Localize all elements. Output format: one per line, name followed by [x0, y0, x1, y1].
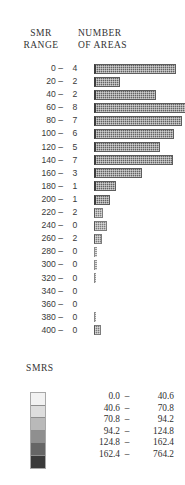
row-range-label: 160 – [0, 167, 63, 180]
legend-label-column: 0.0–40.640.6–70.870.8–94.294.2–124.8124.… [52, 391, 178, 461]
row-range-label: 280 – [0, 245, 63, 258]
row-range-label: 20 – [0, 75, 63, 88]
histogram-row: 80 –7 [0, 114, 185, 127]
legend-range-dash: – [120, 449, 134, 461]
header-number-of-areas-line2: OF AREAS [78, 40, 176, 52]
row-count-value: 1 [66, 180, 84, 193]
row-bar-track [94, 247, 97, 257]
legend-swatch [31, 443, 45, 456]
row-count-value: 0 [66, 245, 84, 258]
row-range-label: 120 – [0, 141, 63, 154]
legend-range-low: 94.2 [82, 426, 120, 438]
row-bar-track [94, 208, 103, 218]
row-bar-track [94, 221, 107, 231]
row-range-label: 100 – [0, 127, 63, 140]
row-range-label: 140 – [0, 154, 63, 167]
legend-swatch [31, 431, 45, 444]
row-bar [94, 181, 116, 191]
legend-range-row: 70.8–94.2 [52, 414, 178, 426]
smr-histogram-figure: SMR RANGE NUMBER OF AREAS 0 –420 –240 –2… [0, 0, 185, 485]
row-bar [94, 325, 101, 335]
column-headers: SMR RANGE NUMBER OF AREAS [0, 28, 185, 58]
legend-range-row: 40.6–70.8 [52, 403, 178, 415]
legend-range-low: 162.4 [82, 449, 120, 461]
row-count-value: 5 [66, 141, 84, 154]
legend-range-low: 40.6 [82, 403, 120, 415]
row-bar [94, 208, 103, 218]
row-count-value: 0 [66, 285, 84, 298]
row-bar-track [94, 77, 120, 87]
row-range-label: 220 – [0, 206, 63, 219]
legend-range-row: 162.4–764.2 [52, 449, 178, 461]
row-range-label: 260 – [0, 232, 63, 245]
row-bar-track [94, 312, 96, 322]
row-count-value: 2 [66, 206, 84, 219]
row-bar [94, 312, 96, 322]
histogram-row: 320 –0 [0, 272, 185, 285]
row-count-value: 0 [66, 324, 84, 337]
row-range-label: 400 – [0, 324, 63, 337]
histogram-row: 180 –1 [0, 180, 185, 193]
row-count-value: 2 [66, 232, 84, 245]
row-range-label: 60 – [0, 101, 63, 114]
row-range-label: 320 – [0, 272, 63, 285]
legend-range-row: 0.0–40.6 [52, 391, 178, 403]
histogram-row: 360 –0 [0, 298, 185, 311]
row-bar-track [94, 195, 110, 205]
legend-range-high: 124.8 [134, 426, 174, 438]
row-bar [94, 142, 160, 152]
legend-range-dash: – [120, 437, 134, 449]
row-bar [94, 90, 156, 100]
row-count-value: 6 [66, 127, 84, 140]
legend-range-dash: – [120, 426, 134, 438]
row-bar [94, 155, 173, 165]
row-bar-track [94, 273, 96, 283]
histogram-row: 100 –6 [0, 127, 185, 140]
row-count-value: 0 [66, 298, 84, 311]
row-bar-track [94, 325, 101, 335]
legend-swatch [31, 393, 45, 406]
legend-swatch [31, 456, 45, 468]
legend-swatch [31, 418, 45, 431]
header-number-of-areas: NUMBER OF AREAS [78, 28, 176, 51]
histogram-row: 280 –0 [0, 245, 185, 258]
row-bar-track [94, 129, 174, 139]
row-bar [94, 103, 185, 113]
row-bar [94, 168, 142, 178]
legend-range-low: 124.8 [82, 437, 120, 449]
row-bar-track [94, 168, 142, 178]
row-range-label: 380 – [0, 311, 63, 324]
row-bar-track [94, 90, 156, 100]
row-bar-track [94, 155, 173, 165]
row-range-label: 80 – [0, 114, 63, 127]
histogram-row: 20 –2 [0, 75, 185, 88]
row-bar-track [94, 64, 176, 74]
row-bar [94, 247, 97, 257]
row-count-value: 7 [66, 114, 84, 127]
legend-range-high: 40.6 [134, 391, 174, 403]
row-bar [94, 260, 97, 270]
legend-range-dash: – [120, 403, 134, 415]
row-count-value: 7 [66, 154, 84, 167]
legend-range-low: 70.8 [82, 414, 120, 426]
legend-range-dash: – [120, 414, 134, 426]
row-count-value: 0 [66, 311, 84, 324]
row-bar-track [94, 234, 102, 244]
row-count-value: 0 [66, 258, 84, 271]
histogram-row: 300 –0 [0, 258, 185, 271]
legend-range-high: 162.4 [134, 437, 174, 449]
row-count-value: 3 [66, 167, 84, 180]
legend-range-dash: – [120, 391, 134, 403]
legend-range-low: 0.0 [82, 391, 120, 403]
legend-swatch-column [30, 392, 46, 469]
histogram-row: 0 –4 [0, 62, 185, 75]
histogram-row: 160 –3 [0, 167, 185, 180]
row-count-value: 4 [66, 62, 84, 75]
histogram-row: 40 –2 [0, 88, 185, 101]
histogram-rows: 0 –420 –240 –260 –880 –7100 –6120 –5140 … [0, 62, 185, 337]
legend-range-row: 94.2–124.8 [52, 426, 178, 438]
row-count-value: 0 [66, 272, 84, 285]
row-count-value: 1 [66, 193, 84, 206]
header-smr-range-line1: SMR [10, 28, 72, 40]
row-bar-track [94, 142, 160, 152]
